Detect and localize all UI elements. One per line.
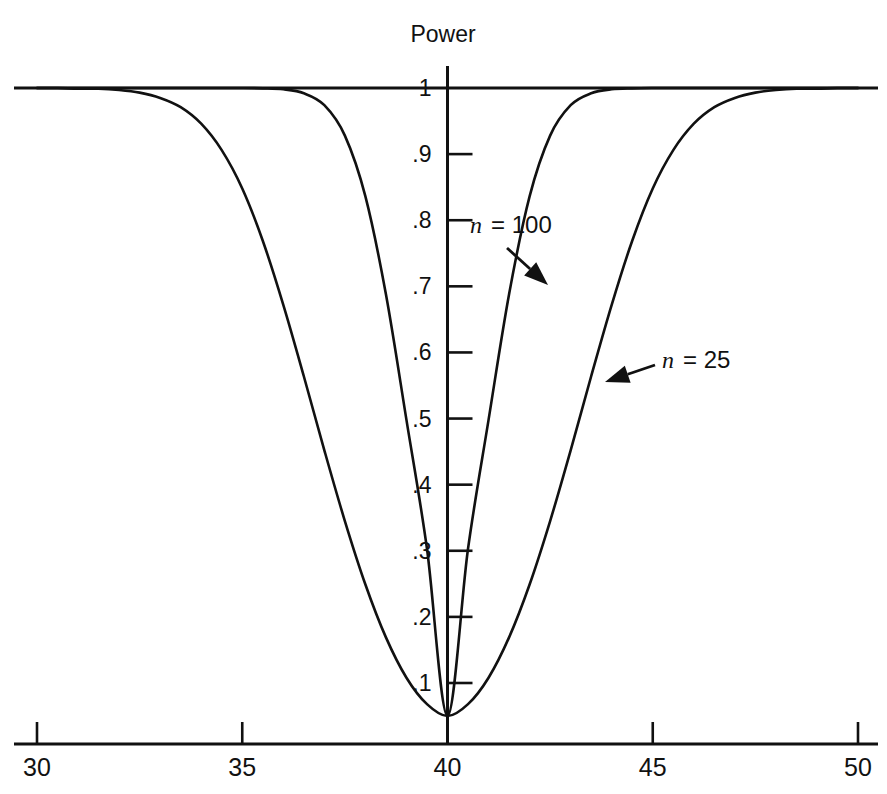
annotation-value: = 25 — [683, 346, 730, 373]
y-axis-ticks — [448, 154, 473, 683]
annotation-arrowhead — [605, 366, 631, 383]
y-axis-tick-label: .9 — [412, 141, 431, 167]
y-axis-tick-labels: 1.9.8.7.6.5.4.3.2.1 — [412, 75, 431, 696]
x-axis-tick-label: 40 — [434, 753, 462, 781]
annotation-label: n= 25 — [662, 346, 730, 373]
annotation-leader-line — [628, 365, 655, 374]
y-axis-tick-label: .2 — [412, 604, 431, 630]
annotation-n-symbol: n — [470, 212, 482, 238]
chart-canvas: 1.9.8.7.6.5.4.3.2.1 3035404550 n= 100n= … — [0, 0, 887, 794]
annotation-n-symbol: n — [662, 347, 674, 373]
power-curve-chart: 1.9.8.7.6.5.4.3.2.1 3035404550 n= 100n= … — [0, 0, 887, 794]
annotation-label: n= 100 — [470, 211, 552, 238]
annotation-value: = 100 — [491, 211, 552, 238]
x-axis-tick-label: 30 — [23, 753, 51, 781]
x-axis-tick-label: 50 — [844, 753, 872, 781]
y-axis-tick-label: .7 — [412, 273, 431, 299]
curve-annotation-n100: n= 100 — [470, 211, 552, 285]
curve-annotation-n25: n= 25 — [605, 346, 730, 383]
x-axis-tick-label: 45 — [639, 753, 667, 781]
y-axis-title: Power — [410, 21, 476, 47]
y-axis-tick-label: .6 — [412, 339, 431, 365]
y-axis-tick-label: .5 — [412, 406, 431, 432]
x-axis-tick-labels: 3035404550 — [23, 753, 872, 781]
x-axis-tick-label: 35 — [228, 753, 256, 781]
y-axis-tick-label: 1 — [419, 75, 432, 101]
y-axis-tick-label: .8 — [412, 207, 431, 233]
